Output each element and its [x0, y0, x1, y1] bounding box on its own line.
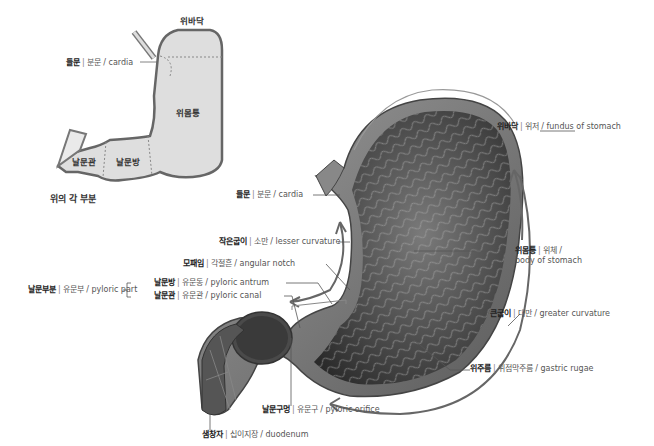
- schematic-body-label: 위몸통: [176, 106, 200, 118]
- schematic-cardia-label: 들문|분문 / cardia: [66, 58, 133, 68]
- label-pyloric-part: 날문부분|유문부 / pyloric part: [28, 285, 137, 295]
- schematic-antrum-label: 날문방: [116, 155, 140, 167]
- schematic-canal-label: 날문관: [72, 155, 96, 167]
- schematic-fundus-label: 위바닥: [180, 14, 204, 26]
- label-pyloric-canal: 날문관|유문관 / pyloric canal: [154, 291, 261, 301]
- label-angular-notch: 모패임|각절흔 / angular notch: [183, 259, 295, 269]
- schematic-caption: 위의 각 부분: [50, 192, 96, 205]
- label-duodenum: 샘창자|십이지장 / duodenum: [202, 430, 308, 440]
- label-pyloric-orifice: 날문구멍|유문구 / pyloric orifice: [262, 405, 380, 415]
- label-gastric-rugae: 위주름|위점막주름 / gastric rugae: [470, 364, 593, 374]
- label-greater-curvature: 큰굽이|대만 / greater curvature: [490, 309, 610, 319]
- label-cardia: 들문|분문 / cardia: [236, 190, 303, 200]
- label-fundus: 위바닥|위저 / fundus of stomach: [497, 122, 621, 132]
- label-body-of-stomach: 위몸통|위체 / body of stomach: [515, 246, 582, 266]
- label-lesser-curvature: 작은굽이|소만 / lesser curvature: [219, 237, 340, 247]
- label-pyloric-antrum: 날문방|유문동 / pyloric antrum: [154, 278, 269, 288]
